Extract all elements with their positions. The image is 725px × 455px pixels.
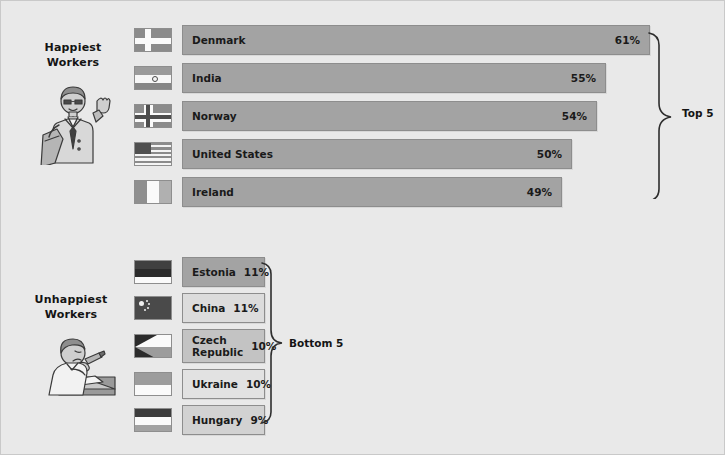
chart-row: Hungary 9% [134, 405, 265, 435]
top5-label: Top 5 [682, 107, 713, 119]
flag-united-states [134, 142, 172, 166]
bar-label: India [192, 72, 222, 84]
bar-united-states: United States 50% [182, 139, 572, 169]
bottom5-bracket [259, 261, 289, 429]
chart-row: Ukraine 10% [134, 369, 265, 399]
bar-label: Norway [192, 110, 237, 122]
flag-india [134, 66, 172, 90]
unhappy-worker-illustration [27, 331, 127, 411]
flag-czech-republic [134, 334, 172, 358]
bar-label: Ireland [192, 186, 234, 198]
flag-norway [134, 104, 172, 128]
bar-ukraine: Ukraine 10% [182, 369, 265, 399]
bar-value: 49% [519, 186, 552, 198]
bar-china: China 11% [182, 293, 265, 323]
bar-label: Estonia [192, 266, 236, 278]
bar-norway: Norway 54% [182, 101, 597, 131]
chart-row: India 55% [134, 63, 606, 93]
flag-hungary [134, 408, 172, 432]
bar-denmark: Denmark 61% [182, 25, 650, 55]
flag-ireland [134, 180, 172, 204]
happy-worker-illustration [35, 79, 121, 169]
bottom5-label: Bottom 5 [289, 337, 343, 349]
bar-india: India 55% [182, 63, 606, 93]
chart-row: Norway 54% [134, 101, 597, 131]
bar-value: 50% [529, 148, 562, 160]
flag-china [134, 296, 172, 320]
chart-row: Czech Republic 10% [134, 329, 265, 363]
bar-label: China [192, 302, 225, 314]
chart-row: Ireland 49% [134, 177, 562, 207]
bar-hungary: Hungary 9% [182, 405, 265, 435]
unhappiest-workers-label: Unhappiest Workers [11, 293, 131, 323]
happiest-workers-label: Happiest Workers [13, 41, 133, 71]
flag-denmark [134, 28, 172, 52]
bar-label: Denmark [192, 34, 246, 46]
infographic-canvas: Happiest Workers [0, 0, 725, 455]
bar-label: Ukraine [192, 378, 238, 390]
bar-value: 55% [563, 72, 596, 84]
top5-bracket [646, 31, 680, 203]
bar-ireland: Ireland 49% [182, 177, 562, 207]
flag-ukraine [134, 372, 172, 396]
chart-row: Estonia 11% [134, 257, 265, 287]
bar-value: 54% [554, 110, 587, 122]
bar-label: Hungary [192, 414, 242, 426]
chart-row: Denmark 61% [134, 25, 650, 55]
bar-value: 61% [607, 34, 640, 46]
bar-value: 11% [225, 302, 258, 314]
chart-row: United States 50% [134, 139, 572, 169]
bar-label: Czech Republic [192, 334, 243, 358]
bar-estonia: Estonia 11% [182, 257, 265, 287]
flag-estonia [134, 260, 172, 284]
chart-row: China 11% [134, 293, 265, 323]
bar-czech-republic: Czech Republic 10% [182, 329, 265, 363]
bar-label: United States [192, 148, 273, 160]
